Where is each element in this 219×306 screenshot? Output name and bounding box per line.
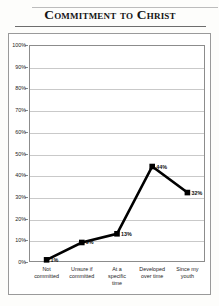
y-axis-tick-label: 70% [2, 107, 26, 113]
data-point-marker [79, 240, 85, 246]
x-axis-tick-label: Notcommitted [29, 266, 64, 280]
x-axis-tick-label-line: Not [29, 266, 64, 273]
x-axis-tick-label-line: Developed [135, 266, 170, 273]
title-underline-rule [15, 26, 206, 27]
data-point-label: 13% [121, 231, 132, 237]
x-axis-tick-label-line: At a [99, 266, 134, 273]
chart-page: Commitment to Christ 0%10%20%30%40%50%60… [0, 0, 219, 306]
x-axis-tick-label: Developedover time [135, 266, 170, 280]
data-point-marker [44, 257, 50, 263]
data-point-label: 9% [86, 239, 94, 245]
y-axis-labels: 0%10%20%30%40%50%60%70%80%90%100% [0, 45, 26, 262]
chart-title-block: Commitment to Christ [14, 6, 206, 30]
x-axis-tick-label: Unsure ifcommitted [64, 266, 99, 280]
series-polyline [47, 167, 188, 260]
y-axis-tick-label: 80% [2, 85, 26, 91]
x-axis-tick-label-line: committed [29, 273, 64, 280]
y-axis-tick-label: 100% [2, 42, 26, 48]
data-point-label: 32% [191, 190, 202, 196]
y-axis-tick-label: 60% [2, 129, 26, 135]
y-axis-tick-label: 10% [2, 237, 26, 243]
data-point-marker [114, 231, 120, 237]
x-axis-tick-label-line: time [99, 280, 134, 287]
data-series-line [29, 45, 205, 262]
page-title: Commitment to Christ [14, 7, 206, 23]
y-axis-tick-label: 40% [2, 172, 26, 178]
y-axis-tick-label: 0% [2, 259, 26, 265]
x-axis-tick-label: At aspecifictime [99, 266, 134, 287]
x-axis-tick-label-line: committed [64, 273, 99, 280]
y-axis-tick-label: 50% [2, 151, 26, 157]
y-axis-tick-label: 20% [2, 216, 26, 222]
x-axis-tick-label-line: over time [135, 273, 170, 280]
x-axis-tick-label-line: specific [99, 273, 134, 280]
data-point-label: 44% [156, 164, 167, 170]
data-point-marker [149, 164, 155, 170]
y-axis-tick-label: 90% [2, 64, 26, 70]
data-point-label: 1% [51, 257, 59, 263]
x-axis-tick-label-line: Unsure if [64, 266, 99, 273]
x-axis-tick-label-line: youth [170, 273, 205, 280]
x-axis-labels: NotcommittedUnsure ifcommittedAt aspecif… [29, 266, 205, 298]
x-axis-tick-label: Since myyouth [170, 266, 205, 280]
x-axis-tick-label-line: Since my [170, 266, 205, 273]
y-axis-tick-label: 30% [2, 194, 26, 200]
data-point-marker [185, 190, 191, 196]
